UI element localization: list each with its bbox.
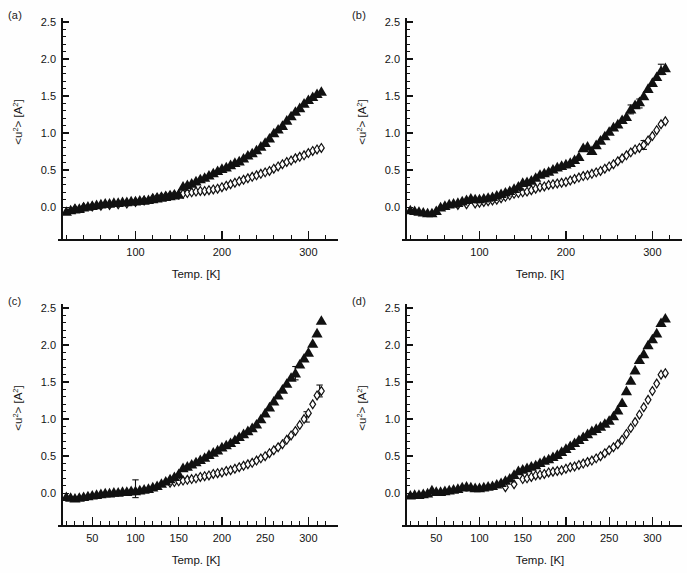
- panel-b: (b) 0.00.51.01.52.02.5100200300Temp. [K]…: [344, 0, 687, 286]
- x-tick-label: 200: [213, 246, 231, 258]
- x-tick-label: 300: [643, 532, 661, 544]
- x-tick-label: 150: [170, 532, 188, 544]
- x-axis-title: Temp. [K]: [516, 268, 565, 280]
- data-point-diamond: [654, 126, 660, 135]
- y-tick-label: 2.5: [385, 302, 400, 314]
- y-tick-label: 1.5: [385, 90, 400, 102]
- x-axis-title: Temp. [K]: [172, 268, 221, 280]
- y-tick-label: 0.0: [385, 487, 400, 499]
- data-layer: [61, 86, 327, 216]
- figure-root: (a) 0.00.51.01.52.02.5100200300Temp. [K]…: [0, 0, 687, 573]
- x-tick-label: 100: [470, 532, 488, 544]
- data-point-diamond: [310, 400, 316, 409]
- x-tick-label: 250: [256, 532, 274, 544]
- x-tick-label: 200: [557, 246, 575, 258]
- data-point-triangle: [303, 347, 314, 357]
- y-tick-label: 2.5: [41, 302, 56, 314]
- data-point-triangle: [290, 368, 301, 378]
- panel-c: (c) 0.00.51.01.52.02.550100150200250300T…: [0, 286, 343, 572]
- data-layer: [405, 313, 671, 500]
- y-tick-label: 0.5: [385, 164, 400, 176]
- x-tick-label: 200: [557, 532, 575, 544]
- data-point-triangle: [316, 315, 327, 325]
- x-tick-label: 150: [514, 532, 532, 544]
- x-tick-label: 300: [299, 532, 317, 544]
- x-axis-title: Temp. [K]: [172, 554, 221, 566]
- y-axis-title: <u2> [A2]: [355, 385, 368, 430]
- plot-a: 0.00.51.01.52.02.5100200300Temp. [K]<u2>…: [0, 0, 343, 286]
- data-layer: [405, 63, 671, 218]
- x-tick-label: 100: [470, 246, 488, 258]
- y-axis-title: <u2> [A2]: [11, 99, 24, 144]
- y-tick-label: 2.0: [41, 53, 56, 65]
- y-tick-label: 2.5: [385, 16, 400, 28]
- x-tick-label: 100: [126, 532, 144, 544]
- plot-b: 0.00.51.01.52.02.5100200300Temp. [K]<u2>…: [344, 0, 687, 286]
- y-tick-label: 1.5: [41, 90, 56, 102]
- y-tick-label: 1.5: [385, 376, 400, 388]
- y-tick-label: 1.0: [385, 413, 400, 425]
- data-point-triangle: [660, 313, 671, 323]
- plot-c: 0.00.51.01.52.02.550100150200250300Temp.…: [0, 286, 343, 572]
- data-point-triangle: [651, 328, 662, 338]
- y-axis-title: <u2> [A2]: [11, 385, 24, 430]
- y-tick-label: 0.5: [41, 164, 56, 176]
- y-tick-label: 0.0: [385, 201, 400, 213]
- y-axis-title: <u2> [A2]: [355, 99, 368, 144]
- y-tick-label: 2.0: [385, 53, 400, 65]
- y-tick-label: 1.0: [41, 127, 56, 139]
- data-point-diamond: [641, 403, 647, 412]
- data-point-diamond: [654, 379, 660, 388]
- y-tick-label: 1.0: [385, 127, 400, 139]
- data-point-diamond: [624, 430, 630, 439]
- data-point-diamond: [649, 387, 655, 396]
- plot-d: 0.00.51.01.52.02.550100150200250300Temp.…: [344, 286, 687, 572]
- x-tick-label: 300: [643, 246, 661, 258]
- data-layer: [61, 315, 327, 502]
- y-tick-label: 0.5: [41, 450, 56, 462]
- data-point-triangle: [625, 375, 636, 385]
- panel-d: (d) 0.00.51.01.52.02.550100150200250300T…: [344, 286, 687, 572]
- x-tick-label: 50: [86, 532, 98, 544]
- data-point-triangle: [638, 349, 649, 359]
- x-tick-label: 100: [126, 246, 144, 258]
- y-tick-label: 1.0: [41, 413, 56, 425]
- data-point-diamond: [297, 421, 303, 430]
- x-tick-label: 50: [430, 532, 442, 544]
- data-point-diamond: [628, 424, 634, 433]
- panel-a: (a) 0.00.51.01.52.02.5100200300Temp. [K]…: [0, 0, 343, 286]
- x-tick-label: 200: [213, 532, 231, 544]
- x-tick-label: 250: [600, 532, 618, 544]
- y-tick-label: 1.5: [41, 376, 56, 388]
- data-point-diamond: [637, 410, 643, 419]
- y-tick-label: 2.5: [41, 16, 56, 28]
- data-point-diamond: [645, 395, 651, 404]
- y-tick-label: 0.0: [41, 201, 56, 213]
- y-tick-label: 0.5: [385, 450, 400, 462]
- data-point-diamond: [632, 418, 638, 427]
- y-tick-label: 2.0: [41, 339, 56, 351]
- data-point-triangle: [617, 397, 628, 407]
- y-tick-label: 0.0: [41, 487, 56, 499]
- data-point-triangle: [311, 328, 322, 338]
- x-axis-title: Temp. [K]: [516, 554, 565, 566]
- data-point-triangle: [621, 386, 632, 396]
- y-tick-label: 2.0: [385, 339, 400, 351]
- data-point-triangle: [307, 338, 318, 348]
- x-tick-label: 300: [299, 246, 317, 258]
- data-point-triangle: [629, 365, 640, 375]
